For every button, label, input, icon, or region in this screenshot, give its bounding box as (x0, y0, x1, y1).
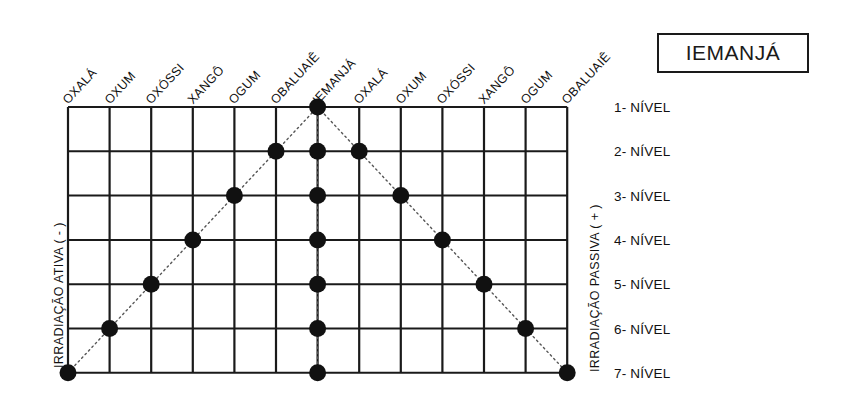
level-label-2: 2- NÍVEL (614, 144, 670, 159)
data-point-marker[interactable] (143, 276, 160, 293)
axis-label-active-irradiation: IRRADIAÇÃO ATIVA ( - ) (52, 222, 66, 368)
data-point-marker[interactable] (309, 364, 326, 381)
data-point-marker[interactable] (309, 231, 326, 248)
irradiation-grid (0, 0, 852, 416)
data-point-marker[interactable] (226, 187, 243, 204)
data-point-marker[interactable] (268, 143, 285, 160)
level-label-4: 4- NÍVEL (614, 232, 670, 247)
data-point-marker[interactable] (309, 320, 326, 337)
level-label-3: 3- NÍVEL (614, 188, 670, 203)
data-point-marker[interactable] (309, 187, 326, 204)
data-point-marker[interactable] (309, 143, 326, 160)
axis-label-passive-irradiation: IRRADIAÇÃO PASSIVA ( + ) (588, 204, 602, 372)
data-point-marker[interactable] (559, 364, 576, 381)
level-label-1: 1- NÍVEL (614, 100, 670, 115)
level-label-5: 5- NÍVEL (614, 277, 670, 292)
data-point-marker[interactable] (184, 231, 201, 248)
data-point-marker[interactable] (309, 276, 326, 293)
level-label-7: 7- NÍVEL (614, 365, 670, 380)
diagram-canvas: IEMANJÁ OXALÁOXUMOXÓSSIXANGÔOGUMOBALUAIÊ… (0, 0, 852, 416)
data-point-marker[interactable] (517, 320, 534, 337)
level-label-6: 6- NÍVEL (614, 321, 670, 336)
data-point-marker[interactable] (476, 276, 493, 293)
data-point-marker[interactable] (351, 143, 368, 160)
data-point-marker[interactable] (392, 187, 409, 204)
data-point-marker[interactable] (434, 231, 451, 248)
data-point-marker[interactable] (101, 320, 118, 337)
